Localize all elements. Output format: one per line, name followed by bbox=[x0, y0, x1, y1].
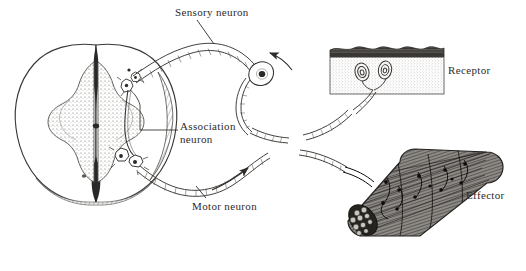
sensory-direction-arrow bbox=[270, 53, 292, 70]
spinal-cord-cross-section bbox=[15, 44, 177, 205]
label-motor-neuron: Motor neuron bbox=[192, 200, 257, 213]
label-sensory-neuron: Sensory neuron bbox=[175, 6, 249, 19]
receptor-skin-block bbox=[330, 47, 444, 114]
label-receptor: Receptor bbox=[448, 64, 491, 77]
motor-nerve-fiber bbox=[138, 150, 347, 198]
label-association-neuron-line2: neuron bbox=[180, 133, 213, 145]
label-effector: Effector bbox=[466, 189, 505, 202]
label-association-neuron-line1: Association bbox=[180, 120, 236, 132]
label-association-neuron: Association neuron bbox=[180, 120, 250, 146]
figure-illustration bbox=[0, 0, 526, 271]
reflex-arc-figure: Sensory neuron Association neuron Motor … bbox=[0, 0, 526, 271]
